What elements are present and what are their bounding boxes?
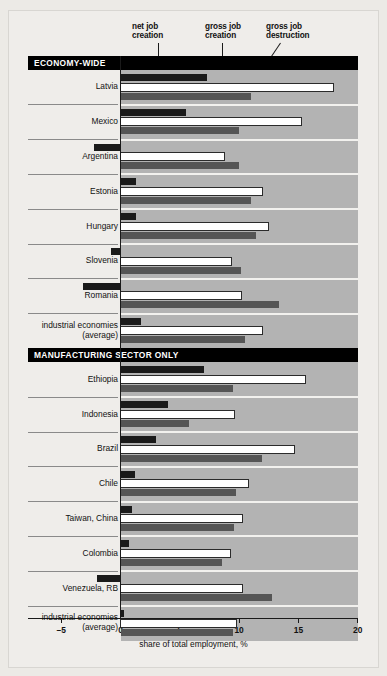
row-separator-inner [121,605,358,607]
row-label-line: Colombia [22,548,118,558]
row-label: Taiwan, China [22,513,118,523]
bar-gross-job-creation [120,619,237,628]
row-separator [28,209,118,210]
row-separator [28,244,118,245]
bar-gross-job-destruction [121,93,251,100]
bar-net-job-creation [121,318,141,325]
row-separator [28,104,118,105]
row-separator-inner [121,104,358,106]
row-label-line: Mexico [22,116,118,126]
row-label: Slovenia [22,255,118,265]
bar-gross-job-destruction [121,162,240,169]
row-label-line: Slovenia [22,255,118,265]
row-label: industrial economies(average) [22,320,118,340]
bar-net-job-creation [121,540,129,547]
row-label-line: Indonesia [22,409,118,419]
bar-gross-job-destruction [121,301,280,308]
bar-gross-job-creation [120,445,295,454]
row-label-line: (average) [22,330,118,340]
bar-gross-job-destruction [121,524,235,531]
bar-gross-job-destruction [121,559,223,566]
row-separator [28,313,118,314]
row-label: Chile [22,478,118,488]
row-separator-inner [121,535,358,537]
bar-net-job-creation [94,144,120,151]
row-label: Romania [22,290,118,300]
bar-gross-job-destruction [121,197,251,204]
bar-gross-job-destruction [121,594,273,601]
row-label: Estonia [22,186,118,196]
bar-net-job-creation [121,366,204,373]
row-separator [28,432,118,433]
x-tick-label: 20 [353,625,362,635]
bar-gross-job-destruction [121,455,262,462]
bar-net-job-creation [111,248,120,255]
bar-gross-job-creation [120,291,242,300]
bar-gross-job-destruction [121,489,236,496]
row-separator-inner [121,570,358,572]
bar-gross-job-creation [120,479,249,488]
bar-net-job-creation [121,401,168,408]
bar-gross-job-destruction [121,385,234,392]
bar-gross-job-destruction [121,629,234,636]
row-label-line: Latvia [22,81,118,91]
bar-gross-job-creation [120,410,235,419]
x-tick-label: 15 [294,625,303,635]
row-label: industrial economies(average) [22,612,118,632]
row-separator [28,466,118,467]
row-separator [28,536,118,537]
row-label: Venezuela, RB [22,583,118,593]
row-label-line: Taiwan, China [22,513,118,523]
bar-gross-job-destruction [121,232,256,239]
row-label-line: Romania [22,290,118,300]
bar-gross-job-destruction [121,336,246,343]
row-label-line: Chile [22,478,118,488]
row-label: Latvia [22,81,118,91]
row-separator-inner [121,501,358,503]
row-separator [28,278,118,279]
row-label: Indonesia [22,409,118,419]
row-label: Colombia [22,548,118,558]
x-tick [239,618,240,623]
bar-net-job-creation [83,283,121,290]
row-separator [28,139,118,140]
bar-gross-job-creation [120,584,243,593]
bar-gross-job-destruction [121,127,240,134]
row-separator-inner [121,396,358,398]
row-separator [28,501,118,502]
bar-gross-job-creation [120,83,334,92]
bar-gross-job-creation [120,514,243,523]
row-label-line: Hungary [22,221,118,231]
bar-net-job-creation [121,436,157,443]
row-label: Argentina [22,151,118,161]
bar-gross-job-destruction [121,420,190,427]
row-label: Brazil [22,443,118,453]
bar-gross-job-creation [120,117,302,126]
section-header-economy-wide: ECONOMY-WIDE [28,56,358,70]
row-separator [28,606,118,607]
zero-line [120,56,121,618]
bar-gross-job-creation [120,222,269,231]
row-label-line: (average) [22,622,118,632]
row-separator-inner [121,431,358,433]
row-label-line: Estonia [22,186,118,196]
bar-net-job-creation [121,213,136,220]
row-separator [28,397,118,398]
row-separator-inner [121,243,358,245]
row-separator-inner [121,466,358,468]
row-separator-inner [121,208,358,210]
bar-net-job-creation [121,471,135,478]
bar-gross-job-creation [120,375,306,384]
x-tick [298,618,299,623]
row-label-line: Argentina [22,151,118,161]
row-separator-inner [121,139,358,141]
row-label-line: Venezuela, RB [22,583,118,593]
bar-net-job-creation [97,575,121,582]
row-separator-inner [121,173,358,175]
row-label-line: industrial economies [22,612,118,622]
bar-net-job-creation [121,109,186,116]
row-separator [28,174,118,175]
row-label: Ethiopia [22,374,118,384]
bar-gross-job-creation [120,549,231,558]
x-axis-title: share of total employment, % [0,639,387,649]
